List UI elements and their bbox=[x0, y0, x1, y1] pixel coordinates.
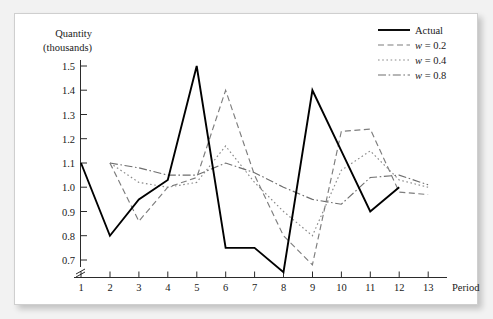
series-line-actual bbox=[81, 66, 399, 272]
y-tick-label: 1.5 bbox=[62, 61, 75, 72]
legend-label-w-0-4: w = 0.4 bbox=[415, 55, 447, 66]
legend-label-w-0-8: w = 0.8 bbox=[415, 70, 446, 81]
series-group bbox=[81, 66, 428, 272]
series-line-w-0-8 bbox=[110, 163, 428, 204]
chart-page: Quantity (thousands) 1.5 1.4 1.3 1.2 1.1 bbox=[0, 0, 493, 319]
x-tick-label: 8 bbox=[281, 282, 286, 293]
y-tick-label: 1.4 bbox=[62, 85, 76, 96]
y-tick-label: 0.8 bbox=[62, 231, 75, 242]
line-chart: Quantity (thousands) 1.5 1.4 1.3 1.2 1.1 bbox=[0, 0, 493, 319]
series-line-w-0-4 bbox=[110, 146, 428, 236]
legend-label-w-0-2: w = 0.2 bbox=[415, 40, 446, 51]
x-axis-tick-labels: 1 2 3 4 5 6 7 8 9 10 11 12 13 bbox=[78, 282, 433, 293]
legend: Actual w = 0.2 w = 0.4 w = 0.8 bbox=[378, 25, 447, 81]
x-axis-ticks bbox=[81, 272, 428, 278]
x-axis-title: Period bbox=[452, 282, 480, 293]
x-tick-label: 5 bbox=[194, 282, 199, 293]
legend-label-actual: Actual bbox=[415, 25, 443, 36]
x-tick-label: 13 bbox=[423, 282, 434, 293]
y-axis-tick-labels: 1.5 1.4 1.3 1.2 1.1 1.0 0.9 0.8 0.7 bbox=[62, 61, 76, 266]
x-tick-label: 12 bbox=[394, 282, 405, 293]
y-tick-label: 0.7 bbox=[62, 255, 75, 266]
series-line-w-0-2 bbox=[110, 90, 428, 265]
y-axis-caption-line1: Quantity bbox=[55, 28, 92, 39]
x-tick-label: 10 bbox=[336, 282, 347, 293]
y-tick-label: 1.2 bbox=[62, 134, 75, 145]
y-tick-label: 0.9 bbox=[62, 207, 75, 218]
x-tick-label: 1 bbox=[78, 282, 83, 293]
y-tick-label: 1.1 bbox=[62, 158, 75, 169]
x-tick-label: 3 bbox=[136, 282, 141, 293]
x-tick-label: 6 bbox=[223, 282, 228, 293]
x-tick-label: 4 bbox=[165, 282, 171, 293]
x-tick-label: 11 bbox=[365, 282, 375, 293]
x-tick-label: 2 bbox=[107, 282, 112, 293]
x-tick-label: 9 bbox=[310, 282, 315, 293]
y-tick-label: 1.3 bbox=[62, 110, 75, 121]
y-tick-label: 1.0 bbox=[62, 182, 75, 193]
y-axis-caption-line2: (thousands) bbox=[43, 42, 92, 54]
x-tick-label: 7 bbox=[252, 282, 257, 293]
